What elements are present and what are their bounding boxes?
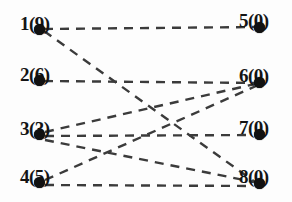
graph-edge [44,81,255,83]
graph-edge [45,185,253,186]
graph-node-dot-8[interactable] [254,178,265,189]
graph-node-dot-6[interactable] [254,77,265,88]
graph-edge [45,86,256,180]
graph-edge [45,140,254,182]
graph-edge [44,31,255,182]
graph-node-dot-3[interactable] [34,129,45,140]
graph-edge [44,27,255,29]
graph-edge [45,135,253,136]
graph-node-dot-1[interactable] [34,24,45,35]
graph-node-dot-7[interactable] [254,129,265,140]
bipartite-graph-figure: 1(9)2(6)3(3)4(5)5(0)6(0)7(0)8(0) [0,0,292,202]
graph-node-dot-4[interactable] [34,177,45,188]
graph-node-dot-2[interactable] [34,75,45,86]
graph-node-dot-5[interactable] [254,22,265,33]
